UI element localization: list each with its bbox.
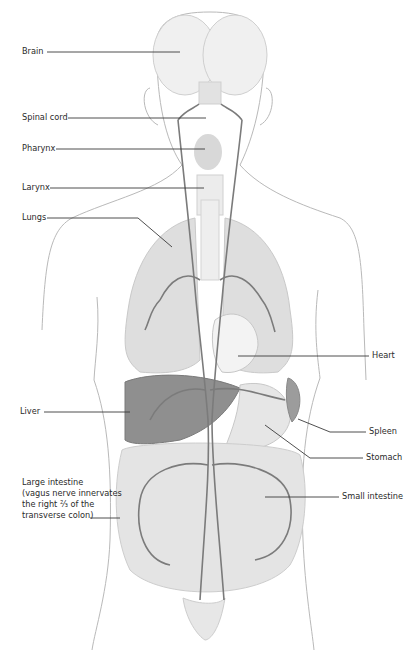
label-pharynx: Pharynx bbox=[22, 143, 55, 154]
trachea bbox=[201, 200, 219, 280]
label-lungs: Lungs bbox=[22, 212, 46, 223]
body-illustration bbox=[0, 0, 419, 663]
pharynx bbox=[194, 134, 222, 170]
label-large-intestine: Large intestine (vagus nerve innervates … bbox=[22, 477, 122, 521]
rectum bbox=[183, 598, 225, 640]
label-brain: Brain bbox=[22, 46, 43, 57]
label-spleen: Spleen bbox=[369, 426, 397, 437]
liver bbox=[125, 375, 240, 444]
label-stomach: Stomach bbox=[366, 452, 402, 463]
label-heart: Heart bbox=[372, 350, 395, 361]
label-liver: Liver bbox=[20, 406, 40, 417]
brain bbox=[153, 15, 267, 104]
label-small-intestine: Small intestine bbox=[342, 491, 403, 502]
intestines bbox=[116, 443, 305, 592]
anatomy-diagram: Brain Spinal cord Pharynx Larynx Lungs L… bbox=[0, 0, 419, 663]
label-spinal-cord: Spinal cord bbox=[22, 112, 68, 123]
label-larynx: Larynx bbox=[22, 182, 50, 193]
